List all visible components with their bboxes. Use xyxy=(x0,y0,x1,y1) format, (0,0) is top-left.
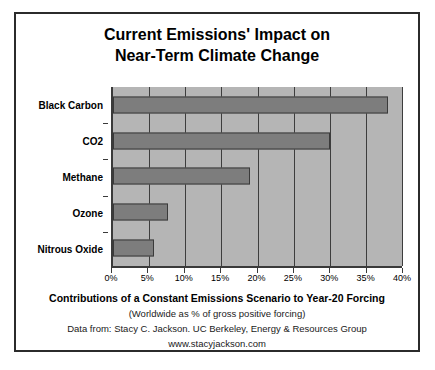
chart-title-line-2: Near-Term Climate Change xyxy=(16,45,418,66)
bar-row xyxy=(113,230,402,266)
footer-line-1: Contributions of a Constant Emissions Sc… xyxy=(16,290,418,306)
x-axis-label-5pct: 5% xyxy=(141,273,154,283)
y-axis-tick xyxy=(103,159,108,160)
y-axis-label-black-carbon: Black Carbon xyxy=(39,87,103,123)
bar-black-carbon[interactable] xyxy=(113,96,388,113)
footer-source-url: www.stacyjackson.com xyxy=(16,336,418,351)
chart-title-line-1: Current Emissions' Impact on xyxy=(16,24,418,45)
chart-title: Current Emissions' Impact on Near-Term C… xyxy=(16,24,418,66)
y-axis-label-ozone: Ozone xyxy=(72,196,103,232)
x-axis-label-15pct: 15% xyxy=(211,273,229,283)
chart-footer: Contributions of a Constant Emissions Sc… xyxy=(16,290,418,351)
x-axis-label-25pct: 25% xyxy=(284,273,302,283)
y-axis-label-co2: CO2 xyxy=(82,123,103,159)
x-axis-label-20pct: 20% xyxy=(247,273,265,283)
y-axis-tick xyxy=(103,232,108,233)
plot-area xyxy=(111,87,402,268)
gridline xyxy=(402,87,403,266)
x-axis-label-10pct: 10% xyxy=(175,273,193,283)
footer-line-2: (Worldwide as % of gross positive forcin… xyxy=(16,306,418,321)
footer-line-3: Data from: Stacy C. Jackson. UC Berkeley… xyxy=(16,321,418,336)
y-axis-tick xyxy=(103,196,108,197)
y-axis-tick xyxy=(103,123,108,124)
bar-row xyxy=(113,123,402,159)
x-axis-label-35pct: 35% xyxy=(357,273,375,283)
x-axis-label-0pct: 0% xyxy=(104,273,117,283)
chart-figure: Current Emissions' Impact on Near-Term C… xyxy=(14,12,420,352)
bar-nitrous-oxide[interactable] xyxy=(113,240,154,257)
y-axis-labels: Black CarbonCO2MethaneOzoneNitrous Oxide xyxy=(16,87,108,268)
bar-methane[interactable] xyxy=(113,168,250,185)
bar-row xyxy=(113,159,402,195)
plot-wrapper xyxy=(111,87,402,268)
bar-row xyxy=(113,87,402,123)
y-axis-label-methane: Methane xyxy=(62,159,103,195)
bar-co2[interactable] xyxy=(113,132,330,149)
x-axis-labels: 0%5%10%15%20%25%30%35%40% xyxy=(111,273,402,287)
x-axis-label-40pct: 40% xyxy=(393,273,411,283)
bar-row xyxy=(113,194,402,230)
x-axis-label-30pct: 30% xyxy=(320,273,338,283)
bar-ozone[interactable] xyxy=(113,204,168,221)
y-axis-label-nitrous-oxide: Nitrous Oxide xyxy=(37,232,103,268)
